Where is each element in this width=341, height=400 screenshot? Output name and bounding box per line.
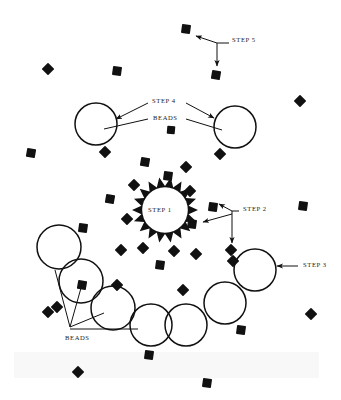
bead: [140, 157, 150, 167]
label-beads_bottom: BEADS: [65, 334, 90, 341]
label-step4: STEP 4: [152, 97, 176, 104]
bead: [225, 244, 238, 257]
bead: [77, 280, 87, 290]
circle-step4-right: [214, 106, 256, 148]
bead: [202, 378, 212, 388]
bead: [177, 284, 190, 297]
bead: [111, 279, 124, 292]
bead: [42, 63, 55, 76]
bead: [78, 223, 88, 233]
leader-beads-top-right: [186, 119, 222, 130]
bead: [305, 308, 318, 321]
figure-canvas: STEP 5STEP 4BEADSSTEP 1STEP 2STEP 3BEADS: [0, 0, 341, 400]
bead: [115, 244, 128, 257]
bead: [236, 325, 246, 335]
bead: [105, 194, 115, 204]
bead: [181, 24, 191, 34]
figure-diagram: STEP 5STEP 4BEADSSTEP 1STEP 2STEP 3BEADS: [0, 0, 341, 400]
bead: [99, 146, 112, 159]
leader-beads-bottom-2: [70, 288, 81, 327]
bead: [137, 242, 150, 255]
scan-artifact-band: [14, 352, 319, 378]
label-step3: STEP 3: [303, 261, 327, 268]
leader-step-2-stem: [232, 211, 239, 243]
bead: [208, 202, 218, 212]
leader-step-5: [217, 43, 229, 66]
bead: [180, 161, 193, 174]
bead: [214, 148, 227, 161]
leader-step-4-left: [116, 103, 148, 119]
bead: [155, 260, 165, 270]
label-step2: STEP 2: [243, 205, 267, 212]
leader-lines-layer: [55, 36, 298, 329]
bead: [128, 179, 141, 192]
leader-step-4-right: [186, 103, 214, 118]
bead: [190, 248, 203, 261]
circle-step3: [234, 249, 276, 291]
label-beads_top: BEADS: [153, 114, 178, 121]
bead: [26, 148, 36, 158]
bead: [294, 95, 307, 108]
label-step5: STEP 5: [232, 36, 256, 43]
circle-step4-left: [75, 103, 117, 145]
leader-beads-top-left: [104, 119, 148, 129]
leader-step-2-upleft: [219, 204, 232, 211]
circle-chain-6: [204, 282, 246, 324]
bead: [298, 201, 308, 211]
circle-chain-1: [37, 225, 81, 269]
bead: [163, 171, 173, 181]
bead: [112, 66, 122, 76]
bead: [167, 126, 176, 135]
circle-chain-3: [91, 286, 135, 330]
bead: [121, 213, 134, 226]
leader-step-5-up: [196, 36, 217, 43]
figure-labels-layer: STEP 5STEP 4BEADSSTEP 1STEP 2STEP 3BEADS: [65, 36, 327, 341]
label-step1: STEP 1: [148, 206, 172, 213]
leader-step-2-left: [203, 214, 232, 222]
bead: [168, 245, 181, 258]
bead: [144, 350, 154, 360]
bead: [227, 255, 240, 268]
bead: [211, 70, 221, 80]
